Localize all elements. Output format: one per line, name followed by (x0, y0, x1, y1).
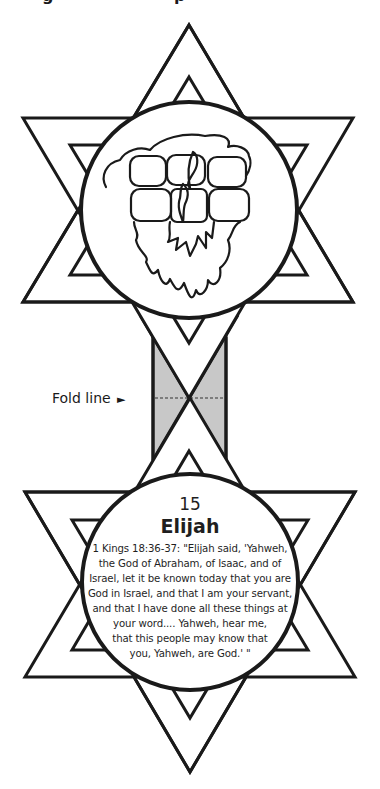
scripture-quote: 1 Kings 18:36-37: "Elijah said, 'Yahweh,… (84, 541, 296, 661)
quote-line: your word.... Yahweh, hear me, (84, 616, 296, 631)
fold-line-label: Fold line ► (52, 389, 126, 409)
quote-line: the God of Abraham, of Isaac, and of (84, 556, 296, 571)
quote-line: 1 Kings 18:36-37: "Elijah said, 'Yahweh, (84, 541, 296, 556)
fold-line-text: Fold line (52, 390, 111, 406)
card-title: Elijah (84, 514, 296, 538)
quote-line: that this people may know that (84, 631, 296, 646)
quote-line: God in Israel, and that I am your servan… (84, 586, 296, 601)
quote-line: and that I have done all these things at (84, 601, 296, 616)
quote-line: you, Yahweh, are God.' " (84, 646, 296, 661)
card-number: 15 (84, 494, 296, 514)
arrow-right-icon: ► (117, 393, 125, 406)
quote-line: Israel, let it be known today that you a… (84, 571, 296, 586)
top-star (23, 25, 353, 398)
bottom-card-text: 15 Elijah 1 Kings 18:36-37: "Elijah said… (84, 494, 296, 661)
